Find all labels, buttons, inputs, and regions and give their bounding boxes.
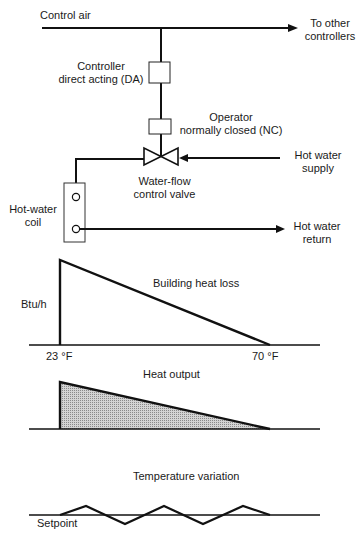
- label-line: To other: [300, 17, 360, 30]
- coil-box: [64, 183, 85, 242]
- label-line: Operator: [176, 111, 286, 124]
- heat-loss-title: Building heat loss: [153, 277, 239, 290]
- y-axis-label: Btu/h: [21, 298, 47, 311]
- coil-inlet: [72, 193, 79, 200]
- x-tick-23f: 23 °F: [46, 350, 72, 363]
- setpoint-label: Setpoint: [37, 517, 77, 530]
- heat-loss-chart: [29, 260, 320, 345]
- control-air-label: Control air: [40, 9, 91, 22]
- label-line: Hot-water: [6, 203, 60, 216]
- heat-output-title: Heat output: [143, 368, 200, 381]
- diagram-canvas: [0, 0, 364, 534]
- label-line: control valve: [127, 188, 202, 201]
- label-line: Hot water: [282, 220, 352, 233]
- operator-box: [149, 119, 171, 134]
- hot-water-return-label: Hot water return: [282, 220, 352, 246]
- label-line: Controller: [56, 60, 146, 73]
- label-line: Hot water: [283, 149, 353, 162]
- label-line: Water-flow: [127, 175, 202, 188]
- hot-water-coil-label: Hot-water coil: [6, 203, 60, 229]
- valve-label: Water-flow control valve: [127, 175, 202, 201]
- label-line: supply: [283, 162, 353, 175]
- supply-line: [179, 154, 280, 162]
- label-line: normally closed (NC): [176, 124, 286, 137]
- hot-water-supply-label: Hot water supply: [283, 149, 353, 175]
- control-air-line: [42, 24, 298, 32]
- temperature-variation-title: Temperature variation: [133, 470, 239, 483]
- controller-label: Controller direct acting (DA): [56, 60, 146, 86]
- label-line: return: [282, 233, 352, 246]
- return-line: [80, 225, 285, 233]
- x-tick-70f: 70 °F: [252, 350, 278, 363]
- controller-box: [149, 62, 170, 83]
- operator-label: Operator normally closed (NC): [176, 111, 286, 137]
- label-line: direct acting (DA): [56, 73, 146, 86]
- label-line: controllers: [300, 30, 360, 43]
- coil-outlet: [72, 225, 79, 232]
- heat-output-chart: [29, 382, 320, 429]
- to-other-controllers-label: To other controllers: [300, 17, 360, 43]
- label-line: coil: [6, 216, 60, 229]
